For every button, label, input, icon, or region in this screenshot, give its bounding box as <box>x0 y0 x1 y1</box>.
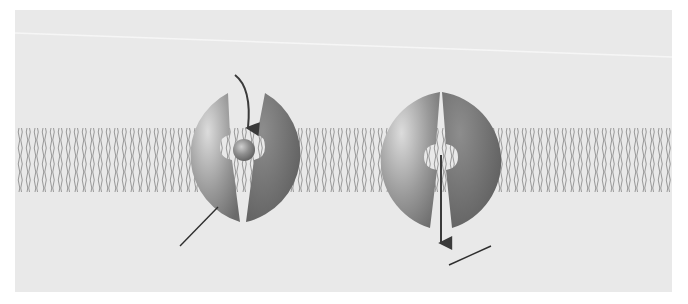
carrier-protein-diagram <box>0 0 688 304</box>
bound-solute <box>233 139 255 161</box>
diagram-canvas <box>0 0 688 304</box>
lipid-tails <box>15 128 672 192</box>
